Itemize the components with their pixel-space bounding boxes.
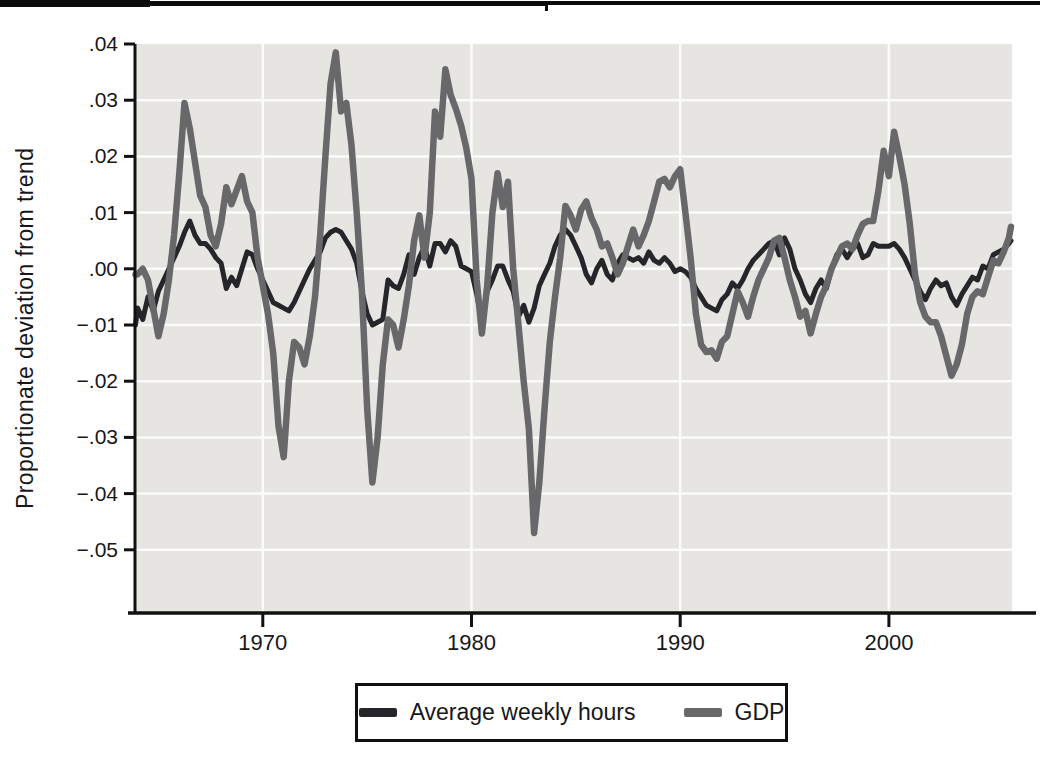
legend-swatch-gdp [684, 708, 722, 717]
legend-label-average-weekly-hours: Average weekly hours [410, 699, 636, 726]
y-tick-label: .04 [89, 32, 119, 55]
y-tick-label: −.05 [77, 538, 118, 561]
x-tick-label: 1980 [447, 630, 496, 655]
legend-swatch-average-weekly-hours [359, 708, 397, 717]
legend-label-gdp: GDP [735, 699, 785, 726]
y-tick-label: .03 [89, 88, 118, 111]
y-tick-label: −.04 [77, 482, 119, 505]
y-tick-label: .02 [89, 144, 118, 167]
y-tick-label: .00 [89, 257, 118, 280]
y-tick-label: .01 [89, 201, 118, 224]
y-tick-label: −.01 [77, 313, 118, 336]
legend: Average weekly hours GDP [355, 683, 788, 742]
x-tick-label: 1970 [238, 630, 287, 655]
y-tick-label: −.03 [77, 425, 118, 448]
deviation-from-trend-chart: .04.03.02.01.00−.01−.02−.03−.04−.0519701… [0, 0, 1040, 762]
y-tick-label: −.02 [77, 369, 118, 392]
book-page: Proportionate deviation from trend .04.0… [0, 0, 1040, 762]
x-tick-label: 2000 [864, 630, 913, 655]
x-tick-label: 1990 [656, 630, 705, 655]
